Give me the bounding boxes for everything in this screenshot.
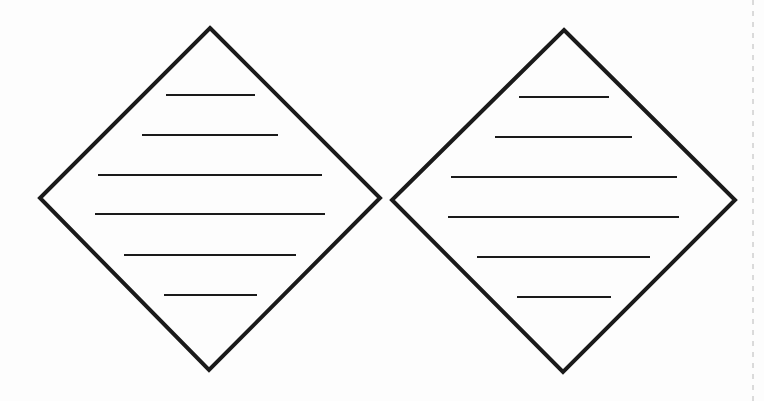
right-diamond bbox=[392, 30, 735, 372]
left-diamond-outline bbox=[40, 28, 380, 370]
left-diamond-lines bbox=[95, 95, 325, 295]
right-diamond-outline bbox=[392, 30, 735, 372]
left-diamond bbox=[40, 28, 380, 370]
right-diamond-lines bbox=[448, 97, 679, 297]
diagram-canvas bbox=[0, 0, 764, 401]
